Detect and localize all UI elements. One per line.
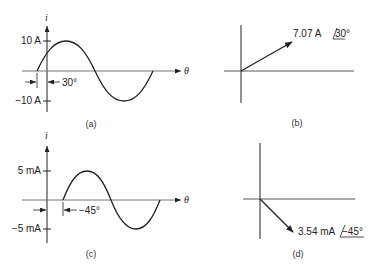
figure-canvas: i θ 10 A −10 A 30° (a) 7.07 A 30° (b) i … (0, 0, 377, 274)
panel-d-phasor-arrow (260, 199, 293, 232)
panel-a-tick-label-pos: 10 A (21, 35, 41, 46)
panel-d-magnitude-label: 3.54 mA (298, 226, 336, 237)
panel-c-x-axis-label: θ (184, 194, 189, 205)
panel-c-caption: (c) (86, 249, 97, 259)
panel-c-y-axis-label: i (45, 130, 48, 141)
panel-c-sinusoid: i θ 5 mA −5 mA −45° (c) (12, 130, 189, 259)
panel-a-caption: (a) (86, 119, 97, 129)
panel-d-phasor: 3.54 mA −45° (d) (243, 143, 364, 259)
panel-a-sinusoid: i θ 10 A −10 A 30° (a) (15, 12, 189, 129)
panel-c-tick-label-neg: −5 mA (12, 223, 42, 234)
panel-a-phase-label: 30° (62, 77, 77, 88)
panel-a-tick-label-neg: −10 A (15, 95, 41, 106)
panel-a-x-axis-label: θ (184, 65, 189, 76)
panel-b-phasor: 7.07 A 30° (b) (224, 25, 354, 128)
panel-d-caption: (d) (293, 249, 304, 259)
panel-d-angle-label: −45° (342, 226, 363, 237)
panel-c-phase-label: −45° (79, 205, 100, 216)
panel-b-angle-label: 30° (335, 28, 350, 39)
panel-b-caption: (b) (292, 118, 303, 128)
panel-c-tick-label-pos: 5 mA (18, 165, 42, 176)
panel-a-y-axis-label: i (45, 12, 48, 23)
panel-b-magnitude-label: 7.07 A (293, 28, 322, 39)
panel-b-phasor-arrow (241, 42, 292, 71)
